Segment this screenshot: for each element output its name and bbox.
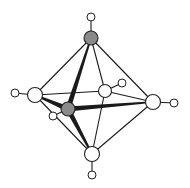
bond-left-back xyxy=(35,91,105,95)
atom-bottom-open xyxy=(85,147,100,162)
terminal-atom-h-front xyxy=(49,112,57,120)
terminal-atom-h-bottom xyxy=(88,171,96,179)
atom-top-shaded xyxy=(84,31,98,45)
bond-front-right xyxy=(68,101,153,111)
octahedral-cluster-diagram xyxy=(0,0,190,188)
atom-right-open xyxy=(146,95,161,110)
atom-left-open xyxy=(28,88,43,103)
atoms-layer xyxy=(11,13,178,179)
bonds-layer xyxy=(35,38,153,155)
atom-front-shaded xyxy=(61,102,75,116)
terminal-atom-h-right xyxy=(170,99,178,107)
terminal-atom-h-back xyxy=(118,79,126,87)
terminal-atom-h-top xyxy=(87,13,95,21)
bond-top-front xyxy=(66,38,92,110)
atom-back-open xyxy=(99,85,112,98)
terminal-atom-h-left xyxy=(11,89,19,97)
